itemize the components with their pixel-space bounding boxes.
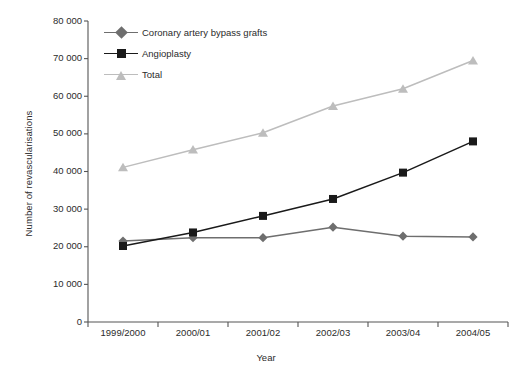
diamond-marker-icon — [115, 26, 128, 39]
legend-label-angioplasty: Angioplasty — [142, 48, 191, 59]
triangle-marker-point — [468, 56, 478, 65]
triangle-marker-point — [258, 128, 268, 137]
diamond-marker-point — [258, 233, 267, 242]
diamond-marker-point — [328, 223, 337, 232]
square-marker-point — [399, 169, 407, 177]
square-marker-point — [119, 242, 127, 250]
legend-swatch-angioplasty — [104, 47, 138, 61]
series-line-coronary-artery-bypass-grafts — [123, 227, 473, 241]
x-axis-title: Year — [0, 352, 532, 363]
diamond-marker-point — [468, 232, 477, 241]
series-line-angioplasty — [123, 141, 473, 246]
legend-swatch-total — [104, 68, 138, 82]
square-marker-icon — [117, 49, 126, 58]
chart-legend: Coronary artery bypass grafts Angioplast… — [104, 22, 267, 85]
legend-item-coronary-artery-bypass-grafts: Coronary artery bypass grafts — [104, 22, 267, 43]
series-coronary-artery-bypass-grafts — [118, 223, 477, 246]
legend-swatch-cabg — [104, 26, 138, 40]
legend-item-angioplasty: Angioplasty — [104, 43, 267, 64]
diamond-marker-point — [398, 232, 407, 241]
square-marker-point — [259, 212, 267, 220]
legend-label-cabg: Coronary artery bypass grafts — [142, 27, 267, 38]
y-axis-title: Number of revascularisations — [23, 54, 34, 294]
triangle-marker-point — [398, 84, 408, 93]
legend-item-total: Total — [104, 64, 267, 85]
square-marker-point — [469, 137, 477, 145]
square-marker-point — [329, 195, 337, 203]
triangle-marker-icon — [116, 71, 126, 80]
x-axis-tick-label: 2004/05 — [428, 327, 518, 338]
legend-label-total: Total — [142, 69, 162, 80]
chart-figure: 010 00020 00030 00040 00050 00060 00070 … — [0, 0, 532, 373]
y-axis-tick-label: 80 000 — [22, 15, 82, 26]
square-marker-point — [189, 228, 197, 236]
y-axis-tick-label: 0 — [22, 316, 82, 327]
